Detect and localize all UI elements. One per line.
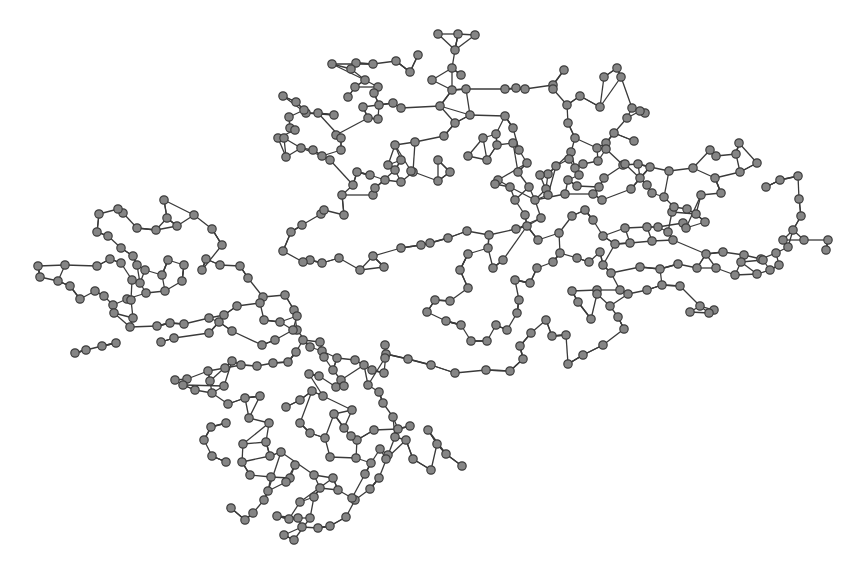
graph-node xyxy=(208,225,216,233)
graph-node xyxy=(596,248,604,256)
graph-node xyxy=(161,287,169,295)
graph-node xyxy=(330,111,338,119)
graph-node xyxy=(337,134,345,142)
graph-node xyxy=(485,231,493,239)
graph-node xyxy=(658,281,666,289)
graph-node xyxy=(308,387,316,395)
graph-node xyxy=(158,271,166,279)
graph-node xyxy=(686,308,694,316)
graph-node xyxy=(285,515,293,523)
graph-node xyxy=(525,183,533,191)
graph-node xyxy=(277,448,285,456)
graph-node xyxy=(624,290,632,298)
graph-node xyxy=(712,264,720,272)
graph-node xyxy=(607,269,615,277)
graph-node xyxy=(397,178,405,186)
graph-node xyxy=(179,381,187,389)
graph-node xyxy=(34,262,42,270)
graph-node xyxy=(375,101,383,109)
graph-node xyxy=(335,254,343,262)
graph-node xyxy=(110,309,118,317)
graph-edge xyxy=(621,77,632,108)
graph-node xyxy=(514,168,522,176)
graph-node xyxy=(296,396,304,404)
graph-node xyxy=(599,261,607,269)
graph-node xyxy=(462,85,470,93)
graph-node xyxy=(347,432,355,440)
graph-node xyxy=(361,470,369,478)
graph-node xyxy=(206,377,214,385)
graph-node xyxy=(454,30,462,38)
graph-node xyxy=(696,302,704,310)
graph-node xyxy=(549,258,557,266)
graph-node xyxy=(391,141,399,149)
graph-node xyxy=(298,221,306,229)
graph-node xyxy=(664,228,672,236)
graph-node xyxy=(236,262,244,270)
graph-node xyxy=(198,266,206,274)
graph-node xyxy=(692,210,700,218)
graph-node xyxy=(207,423,215,431)
graph-edge xyxy=(174,333,209,338)
graph-node xyxy=(237,361,245,369)
graph-node xyxy=(368,366,376,374)
graph-node xyxy=(526,279,534,287)
graph-node xyxy=(164,256,172,264)
graph-node xyxy=(701,218,709,226)
graph-node xyxy=(153,322,161,330)
graph-node xyxy=(491,180,499,188)
graph-node xyxy=(646,163,654,171)
graph-node xyxy=(411,138,419,146)
graph-edge xyxy=(232,331,262,345)
graph-node xyxy=(442,450,450,458)
graph-node xyxy=(291,126,299,134)
graph-node xyxy=(753,270,761,278)
network-graph xyxy=(0,0,857,577)
graph-node xyxy=(824,236,832,244)
graph-node xyxy=(133,261,141,269)
graph-node xyxy=(434,177,442,185)
graph-node xyxy=(434,30,442,38)
graph-node xyxy=(493,141,501,149)
graph-node xyxy=(297,144,305,152)
graph-node xyxy=(320,206,328,214)
graph-node xyxy=(66,282,74,290)
graph-node xyxy=(318,152,326,160)
graph-node xyxy=(564,119,572,127)
graph-node xyxy=(501,112,509,120)
graph-node xyxy=(451,46,459,54)
graph-node xyxy=(127,296,135,304)
graph-node xyxy=(736,168,744,176)
graph-node xyxy=(458,462,466,470)
graph-node xyxy=(575,171,583,179)
graph-node xyxy=(706,146,714,154)
graph-node xyxy=(258,341,266,349)
graph-node xyxy=(370,426,378,434)
graph-node xyxy=(440,132,448,140)
graph-node xyxy=(424,426,432,434)
graph-node xyxy=(133,224,141,232)
graph-node xyxy=(262,438,270,446)
graph-node xyxy=(384,161,392,169)
graph-node xyxy=(326,522,334,530)
graph-node xyxy=(643,181,651,189)
graph-node xyxy=(224,400,232,408)
graph-node xyxy=(589,190,597,198)
graph-node xyxy=(180,261,188,269)
graph-node xyxy=(732,150,740,158)
graph-node xyxy=(693,264,701,272)
graph-node xyxy=(451,369,459,377)
graph-node xyxy=(285,113,293,121)
graph-node xyxy=(190,211,198,219)
graph-node xyxy=(76,295,84,303)
graph-node xyxy=(342,513,350,521)
graph-node xyxy=(391,433,399,441)
graph-node xyxy=(93,228,101,236)
graph-node xyxy=(292,98,300,106)
graph-node xyxy=(290,536,298,544)
graph-node xyxy=(220,382,228,390)
graph-node xyxy=(521,211,529,219)
graph-node xyxy=(600,174,608,182)
graph-node xyxy=(178,277,186,285)
graph-node xyxy=(273,512,281,520)
